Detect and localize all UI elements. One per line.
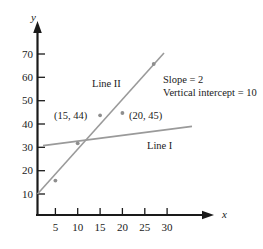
y-tick-label-10: 10	[11, 189, 33, 200]
data-point-20-45	[121, 111, 125, 115]
y-tick-label-30: 30	[11, 142, 33, 153]
y-axis-label: y	[31, 12, 36, 23]
line-ii-label: Line II	[92, 79, 121, 90]
x-axis-arrowhead	[202, 211, 214, 219]
y-tick-label-50: 50	[11, 95, 33, 106]
line-ii-trend	[38, 53, 165, 194]
x-tick-label-15: 15	[89, 222, 111, 233]
y-tick-label-70: 70	[11, 49, 33, 60]
y-tick-label-20: 20	[11, 165, 33, 176]
data-point-10-32	[76, 141, 80, 145]
y-tick-label-60: 60	[11, 72, 33, 83]
x-tick-label-20: 20	[111, 222, 133, 233]
vertical-intercept-annotation: Vertical intercept = 10	[163, 86, 257, 99]
slope-annotation: Slope = 2	[163, 73, 203, 86]
data-point-27-66	[152, 62, 156, 66]
x-tick-label-10: 10	[67, 222, 89, 233]
x-tick-label-30: 30	[156, 222, 178, 233]
line-i-label: Line I	[147, 141, 172, 152]
y-tick-label-40: 40	[11, 119, 33, 130]
point-label-20-45: (20, 45)	[129, 111, 162, 122]
data-point-15-44	[98, 113, 102, 117]
point-label-15-44: (15, 44)	[54, 111, 87, 122]
data-point-5-16	[54, 179, 58, 183]
x-tick-label-25: 25	[134, 222, 156, 233]
x-axis-label: x	[222, 209, 227, 220]
scatter-plot-figure: y x 70 60 50 40 30 20 10 5 10 15 20 25 3…	[0, 0, 263, 249]
x-tick-label-5: 5	[44, 222, 66, 233]
